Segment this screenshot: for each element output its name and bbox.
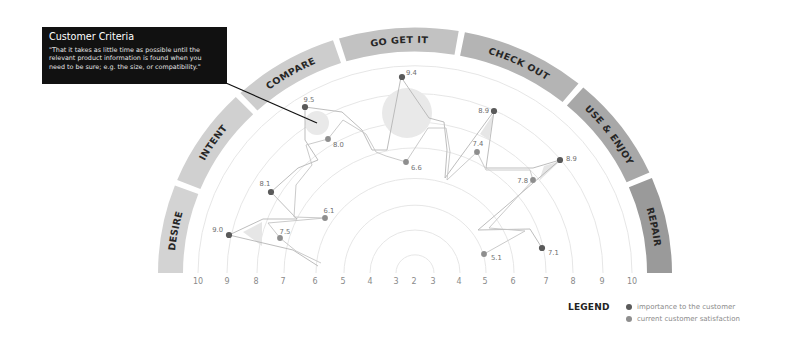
importance-dot-compare — [302, 104, 308, 110]
importance-value-use-enjoy: 8.9 — [566, 155, 577, 163]
importance-value-check-out: 8.9 — [478, 107, 489, 115]
axis-tick: 9 — [224, 277, 229, 286]
callout-quote-line: "That it takes as little time as possibl… — [49, 46, 220, 54]
axis-tick: 8 — [253, 277, 258, 286]
callout-quote-line: relevant product information is found wh… — [49, 54, 220, 62]
gap-shade-use-enjoy — [539, 161, 560, 181]
satisfaction-value-go-get-it: 6.6 — [411, 164, 422, 172]
axis-tick: 3 — [393, 277, 398, 286]
satisfaction-value-compare: 8.0 — [333, 141, 344, 149]
axis-tick: 5 — [340, 277, 345, 286]
axis-tick: 4 — [367, 277, 372, 286]
axis-tick: 9 — [599, 277, 604, 286]
axis-tick: 7 — [543, 277, 548, 286]
axis-tick: 5 — [482, 277, 487, 286]
satisfaction-value-check-out: 7.4 — [473, 140, 484, 148]
importance-value-go-get-it: 9.4 — [406, 69, 417, 77]
axis-tick: 2 — [411, 277, 416, 286]
grid-circle-8 — [257, 122, 573, 273]
axis-tick: 6 — [312, 277, 317, 286]
axis-tick: 10 — [193, 277, 203, 286]
importance-dot-repair — [539, 245, 545, 251]
importance-dot-desire — [226, 232, 232, 238]
satisfaction-dot-compare — [325, 136, 331, 142]
satisfaction-value-desire: 7.5 — [280, 228, 291, 236]
highlight-go-get-it — [382, 88, 432, 138]
satisfaction-value-use-enjoy: 7.8 — [517, 177, 528, 185]
importance-dot-check-out — [491, 108, 497, 114]
satisfaction-dot-use-enjoy — [530, 177, 536, 183]
satisfaction-dot-icon — [626, 316, 632, 322]
axis-tick: 8 — [570, 277, 575, 286]
radial-axis: 10 9 8 7 6 5 4 3 2 3 4 5 6 7 8 9 10 — [193, 277, 637, 286]
callout-quote-line: need to be sure; e.g. the size, or compa… — [49, 63, 220, 71]
legend-item-satisfaction: current customer satisfaction — [626, 314, 740, 324]
importance-dot-icon — [626, 304, 632, 310]
satisfaction-value-repair: 5.1 — [491, 254, 502, 262]
importance-value-intent: 8.1 — [260, 180, 271, 188]
satisfaction-dot-go-get-it — [403, 159, 409, 165]
axis-tick: 10 — [627, 277, 637, 286]
legend-label-satisfaction: current customer satisfaction — [637, 315, 740, 323]
grid-circle-3 — [396, 255, 434, 273]
callout-title: Customer Criteria — [49, 31, 220, 43]
axis-tick: 7 — [280, 277, 285, 286]
importance-value-compare: 9.5 — [304, 96, 315, 104]
legend-label-importance: importance to the customer — [637, 303, 735, 311]
grid-circle-4 — [370, 230, 460, 273]
importance-dot-use-enjoy — [557, 157, 563, 163]
importance-value-repair: 7.1 — [548, 249, 559, 257]
legend-item-importance: importance to the customer — [626, 302, 735, 312]
legend-title: LEGEND — [568, 302, 610, 312]
satisfaction-dot-repair — [481, 251, 487, 257]
legend: LEGEND importance to the customer curren… — [568, 300, 768, 330]
importance-value-desire: 9.0 — [212, 226, 223, 234]
axis-tick: 6 — [510, 277, 515, 286]
axis-tick: 3 — [430, 277, 435, 286]
satisfaction-value-intent: 6.1 — [324, 207, 335, 215]
grid-circle-5 — [344, 205, 486, 273]
stage-label-use-enjoy: USE & ENJOY — [583, 103, 636, 166]
satisfaction-dots — [277, 136, 536, 257]
importance-dot-intent — [268, 189, 274, 195]
axis-tick: 4 — [456, 277, 461, 286]
satisfaction-dot-intent — [322, 215, 328, 221]
customer-criteria-callout: Customer Criteria "That it takes as litt… — [42, 27, 227, 84]
importance-dot-go-get-it — [399, 74, 405, 80]
satisfaction-dot-check-out — [474, 149, 480, 155]
